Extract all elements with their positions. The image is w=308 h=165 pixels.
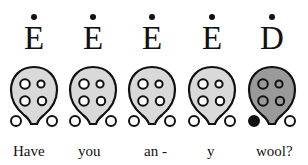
note-letter: E [182,21,242,55]
hole-bottom-left-open [258,96,268,106]
hole-top-right-open [275,80,282,87]
thumb-hole-left-open [70,116,80,126]
hole-bottom-left-open [20,96,30,106]
note-letter: E [122,21,182,55]
thumb-hole-left-open [11,116,21,126]
note-name: E [4,14,64,55]
hole-bottom-left-open [138,96,148,106]
lyric-syllable-4: y [207,143,215,160]
lyric-syllable-5: wool? [256,143,293,160]
ocarina-fingering-diagram [122,64,182,130]
ocarina-fingering-diagram [63,64,123,130]
note-column-5: D [242,0,302,165]
hole-bottom-left-open [79,96,89,106]
note-name: D [242,14,302,55]
thumb-hole-left-closed [249,116,259,126]
lyric-syllable-1: Have [13,143,45,160]
ocarina-fingering-diagram [4,64,64,130]
thumb-hole-left-open [129,116,139,126]
lyric-syllable-3: an - [144,143,167,160]
note-column-3: E [122,0,182,165]
note-letter: E [4,21,64,55]
hole-bottom-right-open [38,97,46,105]
thumb-hole-right-open [285,116,295,126]
hole-bottom-right-open [156,97,164,105]
hole-top-left-open [20,79,30,89]
hole-bottom-right-open [97,97,105,105]
hole-top-right-open [96,80,103,87]
hole-top-left-open [198,79,208,89]
ocarina-fingering-diagram [242,64,302,130]
hole-bottom-right-open [276,97,284,105]
hole-bottom-right-open [216,97,224,105]
hole-top-left-open [258,79,268,89]
note-letter: E [63,21,123,55]
thumb-hole-left-open [189,116,199,126]
thumb-hole-right-open [165,116,175,126]
thumb-hole-right-open [106,116,116,126]
note-name: E [122,14,182,55]
note-column-4: E [182,0,242,165]
thumb-hole-right-open [47,116,57,126]
ocarina-fingering-diagram [182,64,242,130]
note-letter: D [242,21,302,55]
hole-top-right-open [155,80,162,87]
hole-bottom-left-open [198,96,208,106]
thumb-hole-right-open [225,116,235,126]
note-name: E [63,14,123,55]
hole-top-left-open [138,79,148,89]
hole-top-left-open [79,79,89,89]
lyric-syllable-2: you [78,143,101,160]
note-column-2: E [63,0,123,165]
note-column-1: E [4,0,64,165]
hole-top-right-open [37,80,44,87]
note-name: E [182,14,242,55]
hole-top-right-open [215,80,222,87]
